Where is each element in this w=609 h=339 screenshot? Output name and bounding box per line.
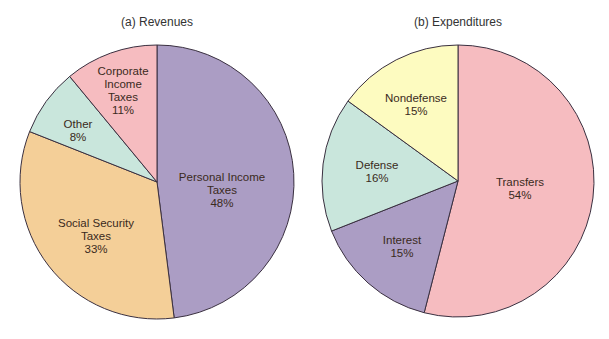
slice-label-transfers: Transfers54% bbox=[496, 176, 544, 202]
slice-label-personal-income-taxes: Personal IncomeTaxes48% bbox=[179, 171, 265, 210]
slice-label-nondefense: Nondefense15% bbox=[385, 92, 447, 118]
pie-charts bbox=[0, 0, 609, 339]
slice-label-social-security-taxes: Social SecurityTaxes33% bbox=[58, 217, 134, 256]
slice-label-other: Other8% bbox=[64, 118, 93, 144]
slice-label-corporate-income-taxes: CorporateIncomeTaxes11% bbox=[97, 65, 148, 117]
slice-label-interest: Interest15% bbox=[383, 234, 421, 260]
slice-label-defense: Defense16% bbox=[356, 159, 399, 185]
